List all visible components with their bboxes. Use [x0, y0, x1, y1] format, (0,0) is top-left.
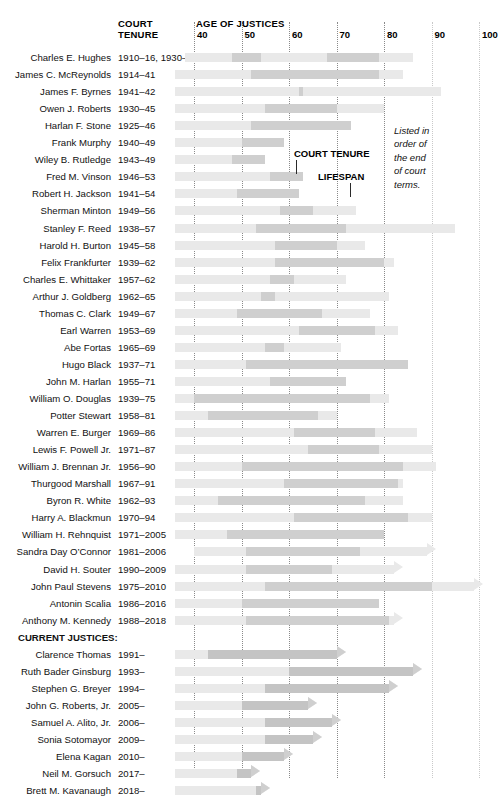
- court-tenure-bar: [294, 513, 408, 522]
- justice-tenure-years: 1955–71: [118, 376, 155, 387]
- tenure-arrow-icon: [337, 646, 346, 658]
- justice-tenure-years: 1941–42: [118, 86, 155, 97]
- justice-tenure-years: 1956–90: [118, 461, 155, 472]
- court-tenure-bar: [256, 224, 346, 233]
- column-header-age-of-justices: AGE OF JUSTICES: [196, 18, 285, 29]
- lifespan-bar: [175, 206, 356, 215]
- lifespan-bar: [175, 292, 389, 301]
- justice-name: Fred M. Vinson: [46, 171, 111, 182]
- court-tenure-bar: [237, 189, 299, 198]
- justice-name: Abe Fortas: [64, 342, 111, 353]
- court-tenure-bar: [232, 53, 261, 62]
- justice-tenure-years: 1971–87: [118, 444, 155, 455]
- lifespan-arrow-icon: [474, 578, 483, 590]
- tenure-arrow-icon: [284, 748, 293, 760]
- court-tenure-bar: [280, 206, 313, 215]
- justice-name: Clarence Thomas: [35, 649, 111, 660]
- justice-tenure-years: 2018–: [118, 785, 145, 796]
- court-tenure-bar: [246, 360, 408, 369]
- justice-tenure-years: 1939–62: [118, 257, 155, 268]
- axis-tick-50: 50: [245, 29, 256, 40]
- justice-name: Samuel A. Alito, Jr.: [31, 717, 111, 728]
- tenure-arrow-icon: [308, 697, 317, 709]
- court-tenure-bar: [265, 104, 336, 113]
- justice-tenure-years: 1946–53: [118, 171, 155, 182]
- court-tenure-bar: [327, 53, 379, 62]
- justice-name: Thomas C. Clark: [39, 308, 111, 319]
- justice-tenure-years: 1986–2016: [118, 598, 166, 609]
- justice-name: Charles E. Whittaker: [23, 274, 111, 285]
- justice-name: Frank Murphy: [52, 137, 111, 148]
- justice-name: Anthony M. Kennedy: [22, 615, 111, 626]
- court-tenure-bar: [246, 616, 389, 625]
- justice-name: Sonia Sotomayor: [37, 734, 111, 745]
- justice-tenure-years: 1949–67: [118, 308, 155, 319]
- justice-tenure-years: 1994–: [118, 683, 145, 694]
- axis-tick-100: 100: [482, 29, 498, 40]
- court-tenure-bar: [246, 547, 360, 556]
- justice-tenure-years: 1945–58: [118, 240, 155, 251]
- justice-name: Elena Kagan: [56, 751, 111, 762]
- court-tenure-bar: [251, 70, 379, 79]
- court-tenure-bar: [237, 769, 251, 778]
- justice-name: Harold H. Burton: [40, 240, 111, 251]
- annotation-lifespan-leader: [350, 183, 351, 197]
- justice-tenure-years: 1925–46: [118, 120, 155, 131]
- justice-tenure-years: 1940–49: [118, 137, 155, 148]
- court-tenure-bar: [270, 275, 294, 284]
- tenure-arrow-icon: [251, 765, 260, 777]
- justice-tenure-years: 2005–: [118, 700, 145, 711]
- justice-name: Sherman Minton: [41, 205, 111, 216]
- justice-name: Arthur J. Goldberg: [33, 291, 111, 302]
- justice-name: William J. Brennan Jr.: [18, 461, 111, 472]
- justice-tenure-years: 1914–41: [118, 69, 155, 80]
- justice-tenure-years: 1988–2018: [118, 615, 166, 626]
- axis-tick-60: 60: [292, 29, 303, 40]
- court-tenure-bar: [265, 582, 431, 591]
- justice-tenure-years: 1939–75: [118, 393, 155, 404]
- court-tenure-bar: [208, 650, 336, 659]
- court-tenure-bar: [265, 718, 332, 727]
- justice-name: Hugo Black: [62, 359, 111, 370]
- lifespan-bar: [175, 275, 346, 284]
- justice-name: William O. Douglas: [29, 393, 111, 404]
- lifespan-bar: [175, 241, 365, 250]
- justice-name: Robert H. Jackson: [32, 188, 111, 199]
- justice-tenure-years: 1938–57: [118, 223, 155, 234]
- justice-tenure-years: 2009–: [118, 734, 145, 745]
- court-tenure-bar: [284, 479, 398, 488]
- justice-name: Charles E. Hughes: [30, 52, 111, 63]
- court-tenure-header-line: TENURE: [118, 29, 158, 40]
- justice-name: John Paul Stevens: [31, 581, 111, 592]
- court-tenure-bar: [294, 428, 375, 437]
- court-tenure-bar: [246, 565, 332, 574]
- justice-tenure-years: 1970–94: [118, 512, 155, 523]
- justice-name: Sandra Day O’Connor: [17, 546, 111, 557]
- lifespan-arrow-icon: [427, 543, 436, 555]
- justice-name: Brett M. Kavanaugh: [26, 785, 111, 796]
- justice-name: William H. Rehnquist: [22, 529, 111, 540]
- justice-name: Wiley B. Rutledge: [35, 154, 111, 165]
- court-tenure-bar: [289, 667, 413, 676]
- justice-name: Lewis F. Powell Jr.: [33, 444, 111, 455]
- justice-name: Thurgood Marshall: [31, 478, 111, 489]
- justice-tenure-years: 1949–56: [118, 205, 155, 216]
- justice-tenure-years: 1981–2006: [118, 546, 166, 557]
- justice-name: Felix Frankfurter: [41, 257, 111, 268]
- court-tenure-bar: [308, 445, 379, 454]
- ordering-note: Listed in order of the end of court term…: [394, 124, 429, 191]
- justice-name: Owen J. Roberts: [40, 103, 111, 114]
- justice-name: Warren E. Burger: [37, 427, 111, 438]
- court-tenure-bar: [218, 496, 365, 505]
- court-tenure-bar: [265, 735, 313, 744]
- column-header-court-tenure: COURTTENURE: [118, 18, 158, 40]
- tenure-arrow-icon: [389, 680, 398, 692]
- justice-name: James F. Byrnes: [40, 86, 111, 97]
- justice-name: James C. McReynolds: [15, 69, 111, 80]
- lifespan-bar: [175, 786, 261, 795]
- tenure-arrow-icon: [413, 663, 422, 675]
- justice-name: John M. Harlan: [46, 376, 111, 387]
- court-tenure-bar: [270, 377, 346, 386]
- justice-tenure-years: 1990–2009: [118, 564, 166, 575]
- court-tenure-bar: [265, 684, 389, 693]
